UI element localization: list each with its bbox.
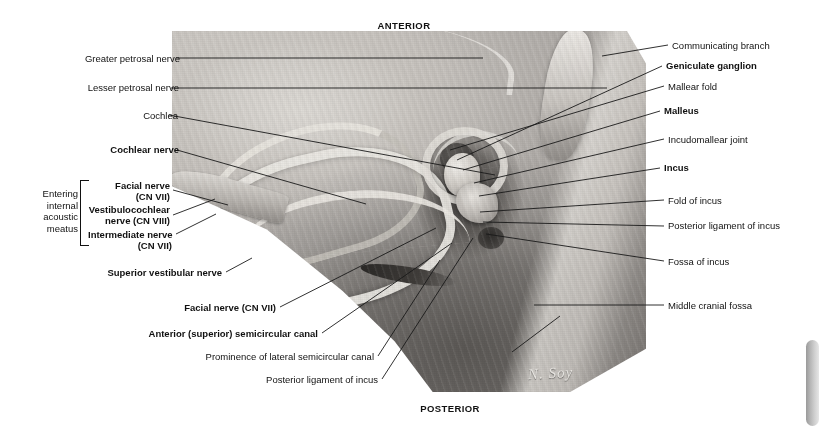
label-communicating-branch: Communicating branch xyxy=(672,40,770,52)
figure-viewer: ANTERIOR POSTERIOR N. Soy xyxy=(0,0,821,432)
label-malleus: Malleus xyxy=(664,105,699,117)
label-posterior-ligament-of-incus-bottom: Posterior ligament of incus xyxy=(230,374,378,386)
orientation-label-posterior: POSTERIOR xyxy=(420,403,480,414)
label-facial-nerve-cn7-iam-line2: (CN VII) xyxy=(92,191,170,203)
label-middle-cranial-fossa: Middle cranial fossa xyxy=(668,300,752,312)
label-cochlear-nerve: Cochlear nerve xyxy=(66,144,179,156)
iam-line-2: internal xyxy=(28,200,78,212)
label-geniculate-ganglion: Geniculate ganglion xyxy=(666,60,757,72)
label-prominence-of-lateral-semicircular-canal: Prominence of lateral semicircular canal xyxy=(150,351,374,363)
iam-line-1: Entering xyxy=(28,188,78,200)
label-cochlea: Cochlea xyxy=(98,110,178,122)
label-facial-nerve-cn7: Facial nerve (CN VII) xyxy=(140,302,276,314)
label-greater-petrosal-nerve: Greater petrosal nerve xyxy=(65,53,180,65)
label-vestibulocochlear-nerve-line1: Vestibulocochlear xyxy=(88,204,170,216)
orientation-label-anterior: ANTERIOR xyxy=(378,20,431,31)
label-anterior-superior-semicircular-canal: Anterior (superior) semicircular canal xyxy=(106,328,318,340)
label-incudomallear-joint: Incudomallear joint xyxy=(668,134,748,146)
label-incus: Incus xyxy=(664,162,689,174)
label-superior-vestibular-nerve: Superior vestibular nerve xyxy=(86,267,222,279)
label-vestibulocochlear-nerve-line2: nerve (CN VIII) xyxy=(88,215,170,227)
label-fossa-of-incus: Fossa of incus xyxy=(668,256,729,268)
artist-signature: N. Soy xyxy=(528,364,574,383)
iam-line-3: acoustic xyxy=(28,211,78,223)
label-fold-of-incus: Fold of incus xyxy=(668,195,722,207)
vertical-scrollbar-thumb[interactable] xyxy=(806,340,819,426)
label-mallear-fold: Mallear fold xyxy=(668,81,717,93)
label-entering-internal-acoustic-meatus: Entering internal acoustic meatus xyxy=(28,188,78,234)
label-lesser-petrosal-nerve: Lesser petrosal nerve xyxy=(66,82,179,94)
label-posterior-ligament-of-incus: Posterior ligament of incus xyxy=(668,220,780,232)
iam-line-4: meatus xyxy=(28,223,78,235)
label-intermediate-nerve-line2: (CN VII) xyxy=(88,240,172,252)
label-facial-nerve-cn7-iam-line1: Facial nerve xyxy=(92,180,170,192)
label-intermediate-nerve-line1: Intermediate nerve xyxy=(88,229,172,241)
